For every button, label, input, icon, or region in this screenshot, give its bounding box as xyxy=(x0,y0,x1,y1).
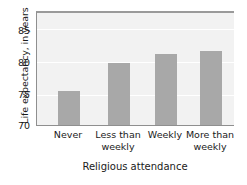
x-axis-title: Religious attendance xyxy=(36,161,234,172)
bar-less-than-weekly xyxy=(108,63,130,126)
x-tick-line: weekly xyxy=(180,141,240,153)
bar-more-than-weekly xyxy=(200,51,222,126)
y-tick-label: 85 xyxy=(4,26,30,36)
plot-area xyxy=(36,11,234,126)
bar-weekly xyxy=(155,54,177,126)
x-axis-tick-labels: Never Less than weekly Weekly More than … xyxy=(36,129,234,157)
x-tick-line: More than xyxy=(180,129,240,141)
plot-inner xyxy=(37,13,234,126)
bar-chart-figure: Life expectancy, in years 85 80 75 70 Ne… xyxy=(0,0,247,185)
y-tick-label: 75 xyxy=(4,90,30,100)
y-tick-label: 70 xyxy=(4,121,30,131)
x-tick-line: weekly xyxy=(88,141,148,153)
y-axis-tick-labels: 85 80 75 70 xyxy=(4,0,30,185)
x-axis-baseline xyxy=(37,125,234,127)
bar-never xyxy=(58,91,80,126)
gridline-85 xyxy=(37,29,234,30)
y-tick-label: 80 xyxy=(4,58,30,68)
x-tick-label-more-than-weekly: More than weekly xyxy=(180,129,240,152)
